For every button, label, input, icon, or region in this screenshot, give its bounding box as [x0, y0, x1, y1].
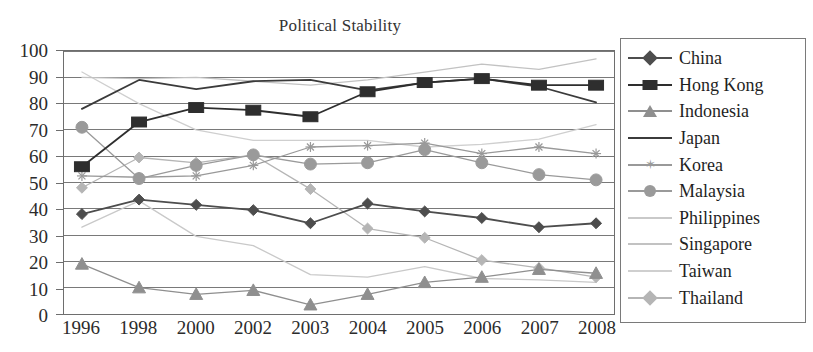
plot-area	[63, 50, 615, 315]
marker-china-2004	[362, 198, 373, 209]
legend-item-korea[interactable]: ✶Korea	[627, 151, 801, 178]
series-korea	[77, 138, 601, 182]
legend-swatch-hong-kong	[627, 75, 673, 95]
legend-label: Hong Kong	[679, 76, 764, 94]
legend-item-singapore[interactable]: Singapore	[627, 231, 801, 258]
y-axis: 1009080706050403020100	[0, 50, 56, 315]
legend-line-icon	[628, 137, 672, 139]
legend-diamond-marker-icon	[642, 51, 658, 67]
legend-item-thailand[interactable]: Thailand	[627, 284, 801, 311]
legend-line-icon	[628, 243, 672, 245]
legend-swatch-thailand	[627, 288, 673, 308]
legend-swatch-japan	[627, 128, 673, 148]
series-singapore	[82, 59, 596, 85]
legend-diamond-marker-icon	[642, 290, 658, 306]
legend-item-japan[interactable]: Japan	[627, 125, 801, 152]
legend-item-philippines[interactable]: Philippines	[627, 205, 801, 232]
legend-item-malaysia[interactable]: Malaysia	[627, 178, 801, 205]
marker-korea-2008	[591, 149, 601, 159]
x-tick-label-1998: 1998	[119, 318, 157, 337]
series-china	[76, 194, 601, 233]
line-korea	[82, 143, 596, 177]
marker-korea-1996	[77, 171, 87, 181]
x-tick-label-2006: 2006	[463, 318, 501, 337]
legend-label: Korea	[679, 156, 723, 174]
marker-korea-2000	[191, 171, 201, 181]
series-malaysia	[76, 121, 602, 186]
marker-thailand-2006	[476, 255, 487, 266]
marker-malaysia-2004	[362, 157, 374, 169]
x-tick-label-2003: 2003	[291, 318, 329, 337]
marker-indonesia-1996	[75, 258, 88, 270]
political-stability-chart: Political Stability 10090807060504030201…	[0, 0, 813, 352]
marker-malaysia-2008	[590, 174, 602, 186]
y-tick-mark-40	[56, 209, 63, 210]
marker-thailand-1996	[76, 182, 87, 193]
plot-svg	[64, 51, 614, 314]
x-tick-label-2008: 2008	[578, 318, 616, 337]
line-malaysia	[82, 127, 596, 180]
legend-swatch-korea: ✶	[627, 155, 673, 175]
line-singapore	[82, 59, 596, 85]
legend-swatch-malaysia	[627, 181, 673, 201]
legend-item-taiwan[interactable]: Taiwan	[627, 258, 801, 285]
legend-triangle-marker-icon	[643, 105, 657, 117]
y-tick-mark-90	[56, 77, 63, 78]
marker-korea-2002	[248, 160, 258, 170]
y-tick-label-60: 60	[29, 147, 48, 166]
y-tick-label-100: 100	[20, 41, 49, 60]
marker-china-2007	[533, 222, 544, 233]
x-tick-label-2005: 2005	[406, 318, 444, 337]
marker-thailand-2004	[362, 223, 373, 234]
legend-swatch-china	[627, 48, 673, 68]
legend-swatch-philippines	[627, 208, 673, 228]
marker-malaysia-2000	[190, 159, 202, 171]
y-tick-label-40: 40	[29, 200, 48, 219]
marker-china-2005	[419, 206, 430, 217]
legend-label: Philippines	[679, 209, 760, 227]
marker-china-2003	[305, 218, 316, 229]
legend-label: Singapore	[679, 235, 752, 253]
marker-korea-2007	[534, 142, 544, 152]
x-axis: 1996199820002002200320042005200620072008	[63, 318, 615, 348]
y-tick-label-70: 70	[29, 120, 48, 139]
y-tick-label-90: 90	[29, 67, 48, 86]
marker-malaysia-2006	[476, 157, 488, 169]
series-hong-kong	[74, 74, 603, 172]
y-tick-mark-0	[56, 314, 63, 315]
y-tick-mark-10	[56, 289, 63, 290]
marker-hong-kong-2000	[189, 103, 204, 113]
marker-malaysia-2002	[247, 149, 259, 161]
legend-line-icon	[628, 270, 672, 272]
legend-line-icon	[628, 217, 672, 219]
legend-label: Thailand	[679, 289, 743, 307]
y-tick-label-50: 50	[29, 173, 48, 192]
legend-label: Taiwan	[679, 262, 732, 280]
line-thailand	[82, 155, 596, 277]
y-tick-mark-80	[56, 103, 63, 104]
legend-item-hong-kong[interactable]: Hong Kong	[627, 72, 801, 99]
legend-square-marker-icon	[643, 80, 658, 90]
marker-malaysia-1996	[76, 121, 88, 133]
y-tick-mark-100	[56, 50, 63, 51]
legend-star-marker-icon: ✶	[644, 159, 656, 171]
legend-label: Malaysia	[679, 182, 745, 200]
marker-malaysia-2007	[533, 169, 545, 181]
x-tick-label-2002: 2002	[234, 318, 272, 337]
marker-hong-kong-2003	[303, 112, 318, 122]
chart-title: Political Stability	[60, 16, 620, 36]
legend-label: Indonesia	[679, 102, 749, 120]
marker-korea-2004	[363, 141, 373, 151]
y-tick-label-30: 30	[29, 226, 48, 245]
marker-indonesia-2002	[247, 284, 260, 296]
marker-hong-kong-2006	[474, 74, 489, 84]
y-tick-label-20: 20	[29, 253, 48, 272]
legend-item-indonesia[interactable]: Indonesia	[627, 98, 801, 125]
legend-swatch-singapore	[627, 234, 673, 254]
legend-label: China	[679, 49, 722, 67]
marker-china-2002	[248, 205, 259, 216]
legend-item-china[interactable]: China	[627, 45, 801, 72]
marker-thailand-2003	[305, 184, 316, 195]
y-tick-mark-30	[56, 236, 63, 237]
line-indonesia	[82, 264, 596, 305]
